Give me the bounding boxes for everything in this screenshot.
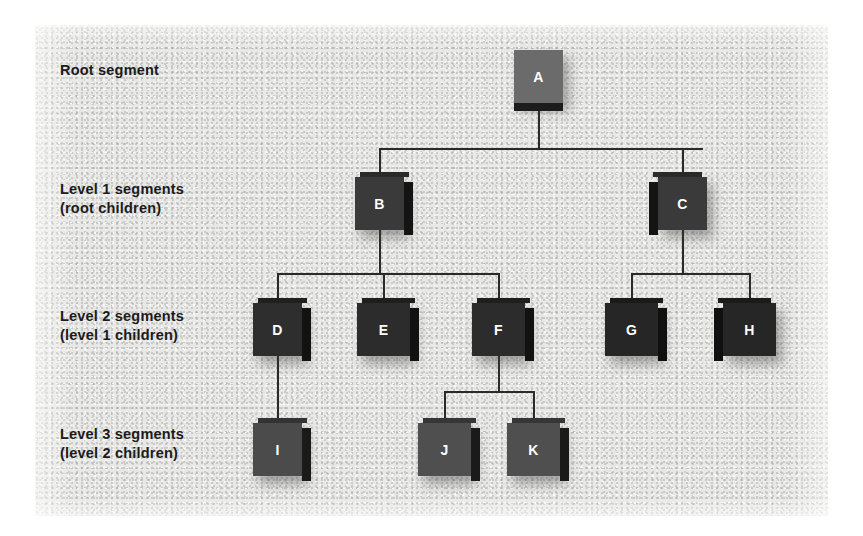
node-j-label: J bbox=[440, 442, 448, 458]
edge-b-bus bbox=[277, 273, 499, 275]
node-a-label: A bbox=[533, 69, 543, 85]
node-b-label: B bbox=[374, 196, 384, 212]
edge-f-bus bbox=[444, 391, 534, 393]
edge-a-stem bbox=[538, 111, 540, 149]
node-g-label: G bbox=[626, 322, 637, 338]
node-g[interactable]: G bbox=[605, 303, 658, 356]
node-c-depth-face bbox=[649, 182, 658, 235]
node-k-label: K bbox=[528, 442, 538, 458]
node-f-label: F bbox=[494, 322, 503, 338]
node-i-label: I bbox=[275, 442, 279, 458]
node-i-depth-face bbox=[302, 428, 311, 481]
node-f-face: F bbox=[472, 303, 525, 356]
row-label-level-2-segments: Level 2 segments (level 1 children) bbox=[60, 307, 184, 345]
node-b-depth-face bbox=[404, 182, 413, 235]
node-c-face: C bbox=[658, 177, 707, 230]
row-label-level-1-segments: Level 1 segments (root children) bbox=[60, 180, 184, 218]
node-g-face: G bbox=[605, 303, 658, 356]
node-j-depth-face bbox=[471, 428, 480, 481]
node-d-label: D bbox=[272, 322, 282, 338]
node-e-depth-face bbox=[410, 308, 419, 361]
edge-c-bus bbox=[631, 273, 750, 275]
node-d-depth-face bbox=[302, 308, 311, 361]
node-b[interactable]: B bbox=[355, 177, 404, 230]
node-j[interactable]: J bbox=[418, 423, 471, 476]
edge-a-bus bbox=[379, 148, 703, 150]
node-k-depth-face bbox=[560, 428, 569, 481]
node-h-depth-face bbox=[714, 308, 723, 361]
node-f[interactable]: F bbox=[472, 303, 525, 356]
node-k-face: K bbox=[507, 423, 560, 476]
node-e-face: E bbox=[357, 303, 410, 356]
node-k[interactable]: K bbox=[507, 423, 560, 476]
edge-d-to-i bbox=[277, 356, 279, 424]
node-f-depth-face bbox=[525, 308, 534, 361]
node-e-label: E bbox=[379, 322, 389, 338]
diagram-canvas: Root segment Level 1 segments (root chil… bbox=[35, 25, 828, 516]
node-h-face: H bbox=[723, 303, 776, 356]
node-g-depth-face bbox=[658, 308, 667, 361]
node-h[interactable]: H bbox=[723, 303, 776, 356]
node-a-face: A bbox=[514, 50, 563, 103]
node-c-label: C bbox=[677, 196, 687, 212]
node-a[interactable]: A bbox=[514, 50, 563, 103]
node-j-face: J bbox=[418, 423, 471, 476]
row-label-root-segment: Root segment bbox=[60, 61, 159, 80]
node-i-face: I bbox=[253, 423, 302, 476]
node-d[interactable]: D bbox=[253, 303, 302, 356]
node-d-face: D bbox=[253, 303, 302, 356]
node-e[interactable]: E bbox=[357, 303, 410, 356]
node-c[interactable]: C bbox=[658, 177, 707, 230]
node-i[interactable]: I bbox=[253, 423, 302, 476]
node-b-face: B bbox=[355, 177, 404, 230]
node-h-label: H bbox=[744, 322, 754, 338]
node-a-depth-face bbox=[514, 103, 563, 111]
row-label-level-3-segments: Level 3 segments (level 2 children) bbox=[60, 425, 184, 463]
